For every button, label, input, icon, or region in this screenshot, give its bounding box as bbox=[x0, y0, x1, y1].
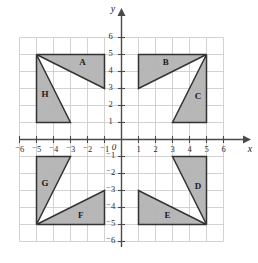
x-tick-label: 1 bbox=[136, 144, 140, 154]
y-tick-label: 5 bbox=[108, 48, 112, 58]
x-tick-label: ⁻5 bbox=[32, 144, 41, 154]
triangle-label-e: E bbox=[164, 210, 170, 220]
y-axis-label: y bbox=[110, 3, 116, 14]
y-tick-label: 2 bbox=[108, 99, 112, 109]
triangle-label-g: G bbox=[41, 178, 48, 188]
triangle-label-a: A bbox=[79, 57, 86, 67]
tick-labels: ⁻6⁻5⁻4⁻3⁻2⁻1123456654321⁻1⁻2⁻3⁻4⁻5⁻6 bbox=[15, 31, 226, 245]
y-tick-label: 4 bbox=[108, 65, 113, 75]
x-tick-label: ⁻2 bbox=[83, 144, 92, 154]
x-axis-label: x bbox=[247, 143, 253, 154]
triangle-label-c: C bbox=[195, 91, 202, 101]
y-tick-label: 3 bbox=[108, 82, 112, 92]
y-tick-label: ⁻5 bbox=[106, 218, 115, 228]
y-axis-arrow-icon bbox=[118, 8, 126, 16]
origin-label: 0 bbox=[112, 142, 117, 152]
x-tick-label: 5 bbox=[204, 144, 208, 154]
x-tick-label: ⁻4 bbox=[49, 144, 59, 154]
triangle-label-b: B bbox=[163, 57, 169, 67]
x-tick-label: 6 bbox=[221, 144, 225, 154]
y-tick-label: ⁻6 bbox=[106, 235, 115, 245]
coordinate-plane-figure: ⁻6⁻5⁻4⁻3⁻2⁻1123456654321⁻1⁻2⁻3⁻4⁻5⁻6 ABC… bbox=[0, 0, 258, 263]
y-tick-label: ⁻3 bbox=[106, 184, 115, 194]
y-tick-label: ⁻2 bbox=[106, 167, 115, 177]
y-tick-label: 1 bbox=[108, 116, 112, 126]
triangle-label-d: D bbox=[195, 181, 202, 191]
triangle-label-h: H bbox=[41, 89, 48, 99]
coordinate-grid-svg: ⁻6⁻5⁻4⁻3⁻2⁻1123456654321⁻1⁻2⁻3⁻4⁻5⁻6 ABC… bbox=[0, 0, 258, 263]
x-tick-label: 2 bbox=[153, 144, 157, 154]
x-tick-label: ⁻6 bbox=[15, 144, 24, 154]
x-tick-label: ⁻3 bbox=[66, 144, 75, 154]
axes bbox=[20, 8, 251, 247]
x-axis-arrow-icon bbox=[243, 136, 251, 144]
x-tick-label: 4 bbox=[187, 144, 192, 154]
y-tick-label: 6 bbox=[108, 31, 112, 41]
triangle-label-f: F bbox=[78, 210, 84, 220]
x-tick-label: 3 bbox=[170, 144, 174, 154]
y-tick-label: ⁻4 bbox=[106, 201, 116, 211]
